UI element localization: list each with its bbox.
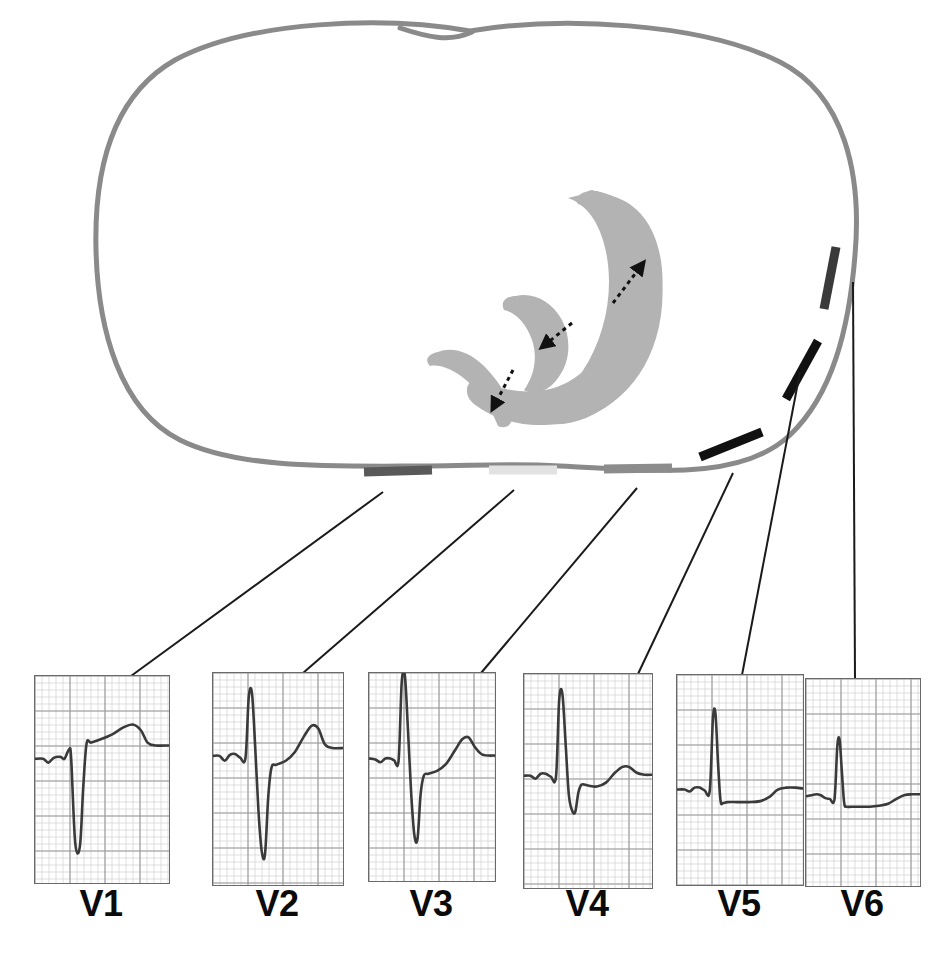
electrode-v3[interactable]	[604, 468, 672, 469]
ecg-strip-v6[interactable]	[805, 678, 921, 887]
ecg-trace-v4	[524, 674, 652, 888]
leader-line-v6	[853, 282, 855, 679]
lead-label-v5: V5	[699, 886, 779, 922]
interventricular-septum	[503, 295, 569, 393]
electrode-v6[interactable]	[824, 247, 836, 309]
ecg-strip-v1[interactable]	[34, 675, 170, 884]
electrode-v1[interactable]	[364, 470, 432, 472]
ecg-strip-v4[interactable]	[523, 673, 653, 889]
qrs-waveform	[369, 673, 495, 843]
ecg-trace-v3	[369, 673, 495, 881]
figure-canvas: V1V2V3V4V5V6	[0, 0, 949, 954]
lead-label-v6: V6	[822, 886, 902, 922]
electrode-v5[interactable]	[786, 341, 818, 399]
leader-line-v1	[131, 492, 383, 676]
leader-line-v5	[742, 372, 800, 675]
ecg-strip-v2[interactable]	[212, 672, 344, 886]
lead-label-v2: V2	[237, 886, 317, 922]
qrs-waveform	[524, 689, 652, 814]
qrs-waveform	[677, 708, 803, 804]
leader-line-v3	[481, 488, 637, 673]
leader-line-v4	[638, 473, 733, 674]
qrs-waveform	[35, 724, 169, 853]
qrs-waveform	[806, 737, 920, 807]
lead-label-v3: V3	[391, 886, 471, 922]
leader-line-v2	[303, 490, 514, 673]
lead-label-v4: V4	[547, 886, 627, 922]
electrode-v4[interactable]	[700, 432, 762, 457]
ecg-trace-v2	[213, 673, 343, 885]
qrs-waveform	[213, 688, 343, 859]
ecg-trace-v1	[35, 676, 169, 883]
ecg-trace-v6	[806, 679, 920, 886]
ecg-trace-v5	[677, 675, 803, 885]
lead-label-v1: V1	[61, 886, 141, 922]
ecg-strip-v3[interactable]	[368, 672, 496, 882]
ecg-strip-v5[interactable]	[676, 674, 804, 886]
